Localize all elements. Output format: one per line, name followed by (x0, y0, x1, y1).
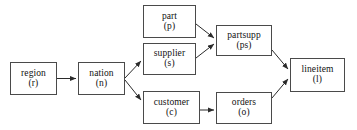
node-supplier[interactable]: supplier (s) (143, 43, 196, 75)
node-nation[interactable]: nation (n) (78, 62, 125, 95)
edge-nation-customer (125, 80, 141, 100)
node-nation-alias: (n) (96, 79, 107, 89)
edge-part-partsupp (196, 24, 214, 38)
node-region[interactable]: region (r) (10, 62, 57, 95)
edge-partsupp-lineitem (272, 50, 288, 69)
node-customer[interactable]: customer (c) (143, 91, 200, 124)
edge-orders-lineitem (272, 79, 288, 98)
node-partsupp-alias: (ps) (236, 41, 251, 51)
node-partsupp[interactable]: partsupp (ps) (216, 25, 272, 56)
edge-supplier-partsupp (196, 44, 214, 58)
node-customer-alias: (c) (166, 108, 177, 118)
node-lineitem-alias: (l) (313, 75, 322, 85)
node-orders-alias: (o) (238, 108, 249, 118)
edge-nation-supplier (125, 61, 141, 78)
node-orders[interactable]: orders (o) (216, 92, 272, 124)
schema-diagram: region (r) nation (n) part (p) supplier … (0, 0, 357, 130)
node-supplier-alias: (s) (164, 59, 174, 69)
node-part[interactable]: part (p) (143, 5, 196, 38)
node-part-alias: (p) (164, 22, 175, 32)
node-lineitem[interactable]: lineitem (l) (290, 58, 345, 92)
node-region-alias: (r) (29, 79, 39, 89)
